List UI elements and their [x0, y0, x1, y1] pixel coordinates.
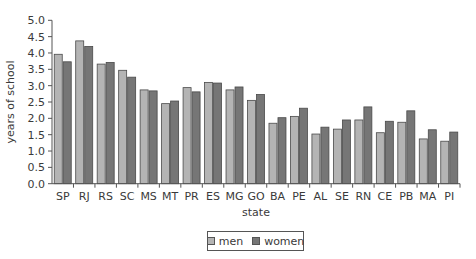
bar-women-GO — [257, 94, 265, 183]
x-tick-label: PI — [444, 190, 454, 203]
legend-item-men: men — [207, 235, 243, 248]
x-tick-label: SP — [56, 190, 70, 203]
x-tick-label: BA — [270, 190, 286, 203]
bar-women-SC — [128, 77, 136, 184]
bar-men-PR — [183, 88, 191, 184]
legend-label-men: men — [219, 235, 243, 248]
y-tick-label: 2.0 — [28, 112, 46, 125]
bar-men-PE — [290, 116, 298, 183]
bar-women-ES — [214, 83, 222, 184]
legend-label-women: women — [264, 235, 304, 248]
bar-women-MT — [171, 101, 179, 184]
bar-women-MG — [235, 87, 243, 184]
y-tick-label: 0.5 — [28, 161, 46, 174]
x-tick-label: PE — [292, 190, 306, 203]
bar-men-CE — [376, 133, 384, 184]
x-tick-label: MG — [226, 190, 244, 203]
bar-men-GO — [248, 100, 256, 183]
bar-women-SP — [63, 62, 71, 184]
y-tick-label: 2.5 — [28, 96, 46, 109]
bar-chart: 0.00.51.01.52.02.53.03.54.04.55.0 SPRJRS… — [0, 0, 476, 259]
y-tick-label: 3.0 — [28, 80, 46, 93]
bar-men-BA — [269, 123, 277, 183]
bar-men-AL — [312, 134, 320, 184]
bar-men-SC — [119, 70, 127, 183]
bar-women-CE — [385, 121, 393, 183]
bar-men-PB — [398, 122, 406, 183]
bar-men-SE — [333, 129, 341, 184]
x-axis: SPRJRSSCMSMTPRESMGGOBAPEALSERNCEPBMAPI — [52, 184, 460, 203]
x-tick-label: RJ — [79, 190, 90, 203]
x-tick-label: RN — [355, 190, 371, 203]
x-tick-label: ES — [206, 190, 220, 203]
bar-men-RS — [97, 64, 105, 184]
x-axis-title: state — [242, 206, 270, 219]
x-tick-label: GO — [247, 190, 265, 203]
legend-swatch-women — [252, 237, 260, 245]
bar-women-PR — [192, 92, 200, 184]
x-tick-label: MA — [419, 190, 436, 203]
bar-men-RJ — [76, 41, 84, 184]
bar-women-MS — [149, 91, 157, 184]
bar-women-RS — [106, 62, 114, 183]
bar-women-PE — [299, 108, 307, 183]
bar-men-MG — [226, 90, 234, 184]
x-tick-label: SE — [335, 190, 349, 203]
bar-women-BA — [278, 118, 286, 184]
bar-men-MS — [140, 90, 148, 184]
x-tick-label: AL — [314, 190, 329, 203]
legend-swatch-men — [207, 237, 215, 245]
bar-women-RN — [364, 107, 372, 184]
bar-women-AL — [321, 127, 329, 184]
y-tick-label: 1.0 — [28, 145, 46, 158]
legend: men women — [207, 231, 304, 251]
x-tick-label: SC — [120, 190, 135, 203]
x-tick-label: PR — [184, 190, 199, 203]
y-axis-title: years of school — [4, 60, 17, 143]
x-tick-label: PB — [399, 190, 413, 203]
bar-women-RJ — [85, 46, 93, 183]
y-tick-label: 4.0 — [28, 47, 46, 60]
y-tick-label: 4.5 — [28, 31, 46, 44]
bar-men-PI — [441, 141, 449, 183]
x-tick-label: MT — [162, 190, 178, 203]
bar-women-PB — [407, 111, 415, 184]
bar-men-RN — [355, 120, 363, 184]
y-axis: 0.00.51.01.52.02.53.03.54.04.55.0 — [28, 14, 53, 190]
y-tick-label: 1.5 — [28, 129, 46, 142]
y-tick-label: 3.5 — [28, 63, 46, 76]
x-tick-label: MS — [140, 190, 156, 203]
bars — [54, 41, 458, 184]
x-tick-label: CE — [378, 190, 393, 203]
bar-women-SE — [342, 120, 350, 184]
bar-women-PI — [450, 132, 458, 184]
bar-men-ES — [205, 82, 213, 183]
bar-women-MA — [428, 130, 436, 184]
y-tick-label: 5.0 — [28, 14, 46, 27]
bar-men-SP — [54, 54, 62, 183]
bar-men-MT — [162, 104, 170, 184]
y-tick-label: 0.0 — [28, 178, 46, 191]
legend-item-women: women — [252, 235, 304, 248]
x-tick-label: RS — [98, 190, 113, 203]
bar-men-MA — [419, 139, 427, 184]
